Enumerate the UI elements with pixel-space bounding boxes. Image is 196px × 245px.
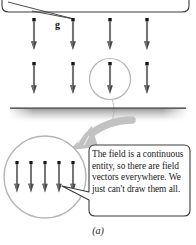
- ground-surface: [8, 108, 188, 123]
- figure-graphics: [0, 0, 196, 245]
- top-callout-leader-line: [8, 2, 74, 19]
- field-vector-label-g: g: [55, 20, 60, 30]
- top-callout-remnant: [2, 0, 189, 12]
- figure-caption: (a): [0, 225, 196, 236]
- callout-text: The field is a continuous entity, so the…: [92, 149, 190, 195]
- field-arrow-row-2: [31, 62, 150, 94]
- gravitational-field-figure: g The field is a continuous entity, so t…: [0, 0, 196, 245]
- field-arrow-row-1: [31, 18, 150, 50]
